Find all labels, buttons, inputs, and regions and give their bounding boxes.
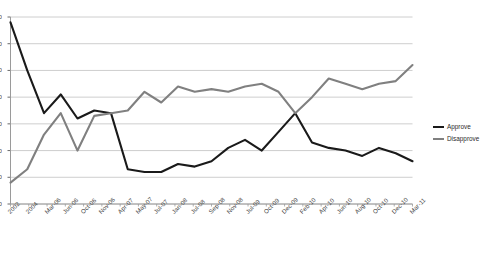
y-axis-tick-label: 70: [0, 66, 2, 73]
legend-swatch-icon: [433, 138, 444, 140]
y-axis-tick-label: 80: [0, 40, 2, 47]
y-axis-tick-labels: 9080706050403020: [0, 0, 2, 257]
line-chart: 9080706050403020 20022004Mar-06Jun-06Oct…: [0, 0, 494, 257]
chart-legend: ApproveDisapprove: [433, 122, 479, 146]
y-axis-tick-label: 50: [0, 120, 2, 127]
chart-plot-area: [0, 0, 494, 257]
legend-label: Disapprove: [447, 136, 479, 142]
y-axis-tick-label: 30: [0, 173, 2, 180]
legend-label: Approve: [447, 124, 471, 130]
series-lines: [11, 22, 413, 182]
axis-lines: [8, 17, 413, 207]
y-axis-tick-label: 20: [0, 200, 2, 207]
legend-item-approve: Approve: [433, 122, 479, 132]
legend-item-disapprove: Disapprove: [433, 134, 479, 144]
legend-swatch-icon: [433, 126, 444, 128]
y-axis-tick-label: 40: [0, 147, 2, 154]
y-axis-tick-label: 90: [0, 13, 2, 20]
y-axis-tick-label: 60: [0, 93, 2, 100]
